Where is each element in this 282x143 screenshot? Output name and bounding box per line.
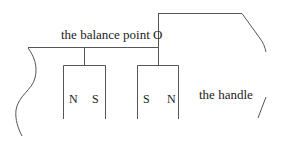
handle-lower-edge	[258, 97, 266, 118]
handle-label: the handle	[199, 87, 253, 102]
handle-upper-edge	[242, 14, 259, 38]
right-magnet-left-pole: S	[143, 92, 150, 106]
handle-upper-curve	[259, 37, 266, 52]
left-break-edge	[16, 48, 36, 136]
balance-point-label: the balance point O	[61, 27, 162, 42]
balance-magnet-diagram: the balance point O N S S N the handle	[0, 0, 282, 143]
left-magnet-right-pole: S	[92, 92, 99, 106]
left-magnet-left-pole: N	[69, 92, 78, 106]
right-magnet-right-pole: N	[167, 92, 176, 106]
